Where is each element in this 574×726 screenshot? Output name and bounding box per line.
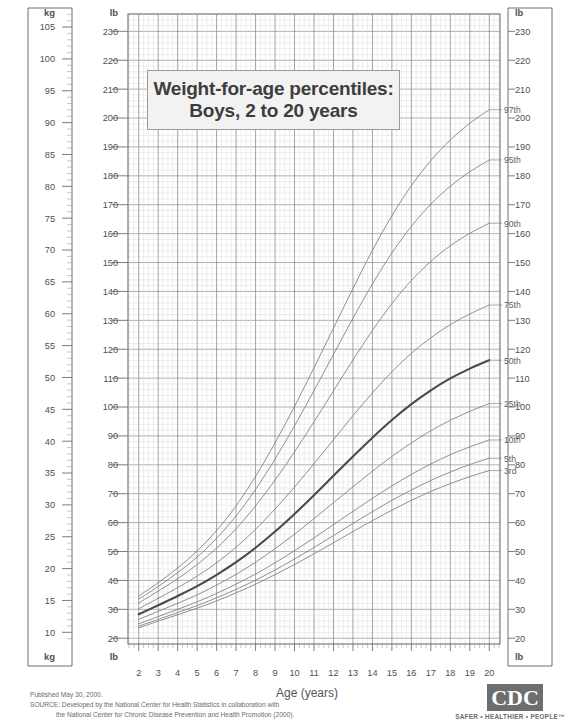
- x-tick-label: 6: [214, 668, 219, 678]
- lb-tick-label-left: 40: [108, 576, 118, 586]
- page-title: Weight-for-age percentiles:: [153, 78, 393, 100]
- x-tick-label: 12: [328, 668, 338, 678]
- lb-unit-bottom-right: lb: [515, 651, 524, 662]
- kg-unit-bottom: kg: [44, 651, 55, 662]
- footer-notes: Published May 30, 2000. SOURCE: Develope…: [30, 690, 410, 721]
- lb-tick-label-right: 30: [515, 605, 525, 615]
- lb-unit-top-left: lb: [110, 7, 119, 18]
- x-tick-label: 7: [234, 668, 239, 678]
- kg-tick-label: 95: [45, 86, 55, 96]
- lb-tick-label-right: 90: [515, 431, 525, 441]
- lb-tick-label-left: 230: [103, 27, 118, 37]
- lb-tick-label-left: 190: [103, 142, 118, 152]
- lb-tick-label-right: 70: [515, 489, 525, 499]
- kg-tick-label: 80: [45, 182, 55, 192]
- x-tick-label: 4: [175, 668, 180, 678]
- kg-tick-label: 10: [45, 628, 55, 638]
- source-line-2: the National Center for Chronic Disease …: [30, 710, 410, 720]
- x-tick-label: 2: [136, 668, 141, 678]
- lb-unit-bottom-left: lb: [110, 651, 119, 662]
- kg-tick-label: 20: [45, 564, 55, 574]
- kg-tick-label: 60: [45, 309, 55, 319]
- lb-tick-label-right: 190: [515, 142, 530, 152]
- kg-tick-label: 15: [45, 596, 55, 606]
- kg-tick-label: 65: [45, 277, 55, 287]
- x-tick-label: 14: [367, 668, 377, 678]
- cdc-logo: CDC: [487, 684, 543, 711]
- lb-tick-label-left: 220: [103, 56, 118, 66]
- lb-tick-label-right: 20: [515, 634, 525, 644]
- lb-tick-label-left: 170: [103, 200, 118, 210]
- lb-tick-label-left: 100: [103, 402, 118, 412]
- lb-tick-label-left: 110: [103, 374, 118, 384]
- lb-tick-label-right: 170: [515, 200, 530, 210]
- lb-tick-label-right: 220: [515, 56, 530, 66]
- lb-tick-label-right: 120: [515, 345, 530, 355]
- lb-tick-label-right: 160: [515, 229, 530, 239]
- kg-tick-label: 75: [45, 214, 55, 224]
- lb-tick-label-right: 60: [515, 518, 525, 528]
- lb-tick-label-left: 30: [108, 605, 118, 615]
- kg-tick-label: 40: [45, 437, 55, 447]
- growth-chart: 97th95th90th75th50th25th10th5th3rd101520…: [0, 0, 574, 726]
- kg-tick-label: 25: [45, 532, 55, 542]
- lb-tick-label-left: 90: [108, 431, 118, 441]
- x-tick-label: 18: [445, 668, 455, 678]
- x-tick-label: 11: [309, 668, 319, 678]
- source-line-1: SOURCE: Developed by the National Center…: [30, 700, 410, 710]
- kg-tick-label: 70: [45, 245, 55, 255]
- x-tick-label: 15: [387, 668, 397, 678]
- percentile-label-90th: 90th: [504, 219, 521, 229]
- percentile-label-75th: 75th: [504, 300, 521, 310]
- lb-tick-label-right: 50: [515, 547, 525, 557]
- x-tick-label: 3: [156, 668, 161, 678]
- kg-tick-label: 35: [45, 468, 55, 478]
- lb-tick-label-right: 80: [515, 460, 525, 470]
- published-date: Published May 30, 2000.: [30, 690, 410, 700]
- x-tick-label: 16: [406, 668, 416, 678]
- lb-tick-label-left: 70: [108, 489, 118, 499]
- lb-tick-label-left: 140: [103, 287, 118, 297]
- x-tick-label: 17: [426, 668, 436, 678]
- lb-tick-label-right: 230: [515, 27, 530, 37]
- kg-tick-label: 105: [40, 22, 55, 32]
- kg-tick-label: 30: [45, 500, 55, 510]
- lb-tick-label-left: 50: [108, 547, 118, 557]
- lb-unit-top-right: lb: [515, 7, 524, 18]
- percentile-label-95th: 95th: [504, 155, 521, 165]
- lb-tick-label-right: 200: [515, 113, 530, 123]
- lb-tick-label-left: 80: [108, 460, 118, 470]
- lb-tick-label-left: 120: [103, 345, 118, 355]
- kg-tick-label: 90: [45, 118, 55, 128]
- lb-tick-label-right: 130: [515, 316, 530, 326]
- lb-tick-label-right: 210: [515, 85, 530, 95]
- kg-unit-top: kg: [44, 7, 55, 18]
- lb-tick-label-right: 100: [515, 402, 530, 412]
- x-tick-label: 10: [289, 668, 299, 678]
- x-tick-label: 13: [348, 668, 358, 678]
- percentile-label-50th: 50th: [504, 356, 521, 366]
- lb-tick-label-left: 160: [103, 229, 118, 239]
- kg-tick-label: 50: [45, 373, 55, 383]
- lb-tick-label-left: 150: [103, 258, 118, 268]
- lb-tick-label-left: 60: [108, 518, 118, 528]
- lb-tick-label-right: 150: [515, 258, 530, 268]
- x-tick-label: 20: [484, 668, 494, 678]
- kg-tick-label: 85: [45, 150, 55, 160]
- kg-tick-label: 55: [45, 341, 55, 351]
- kg-tick-label: 45: [45, 405, 55, 415]
- lb-tick-label-right: 40: [515, 576, 525, 586]
- x-tick-label: 19: [465, 668, 475, 678]
- lb-tick-label-left: 20: [108, 634, 118, 644]
- lb-tick-label-left: 200: [103, 113, 118, 123]
- lb-tick-label-right: 140: [515, 287, 530, 297]
- lb-tick-label-right: 180: [515, 171, 530, 181]
- lb-tick-label-right: 110: [515, 374, 530, 384]
- lb-tick-label-left: 210: [103, 85, 118, 95]
- kg-tick-label: 100: [40, 54, 55, 64]
- chart-title-box: Weight-for-age percentiles: Boys, 2 to 2…: [147, 70, 400, 130]
- lb-tick-label-left: 130: [103, 316, 118, 326]
- x-tick-label: 5: [195, 668, 200, 678]
- lb-tick-label-left: 180: [103, 171, 118, 181]
- page-subtitle: Boys, 2 to 20 years: [189, 100, 357, 122]
